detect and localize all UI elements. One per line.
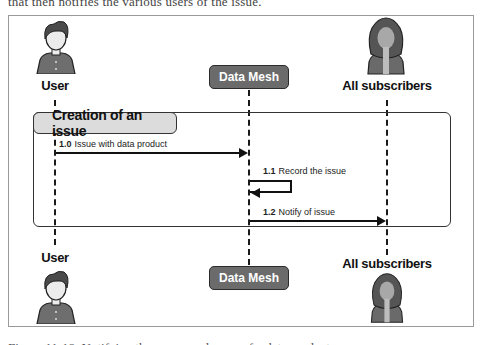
data-mesh-label-bottom: Data Mesh [219,271,279,285]
user-avatar-top [34,18,78,74]
actor-label-user-bottom: User [41,250,69,265]
woman-avatar-icon [364,16,408,76]
data-mesh-box-bottom: Data Mesh [209,266,289,290]
message-1-1-label: 1.1Record the issue [263,166,346,176]
message-1-1-number: 1.1 [263,166,276,176]
message-1-0-text: Issue with data product [75,139,168,149]
message-1-0-label: 1.0Issue with data product [59,139,167,149]
message-1-2-number: 1.2 [263,207,276,217]
actor-label-user-top: User [41,78,69,93]
caption-top-partial: that then notifies the various users of … [8,0,262,10]
subscribers-avatar-top [364,16,408,76]
man-avatar-icon [34,18,78,74]
actor-label-subscribers-top: All subscribers [342,78,431,93]
woman-avatar-icon [366,272,408,324]
message-1-0-number: 1.0 [59,139,72,149]
caption-bottom-partial: Figure 11-18. Notifying the owner and us… [8,337,330,345]
message-1-1-text: Record the issue [279,166,347,176]
message-1-2-text: Notify of issue [279,207,336,217]
data-mesh-box-top: Data Mesh [209,65,289,89]
subscribers-avatar-bottom [366,272,408,324]
actor-label-subscribers-bottom: All subscribers [342,256,431,271]
data-mesh-label-top: Data Mesh [219,70,279,84]
message-1-0-arrow [56,152,240,154]
arrow-head-icon [239,148,248,158]
message-1-2-label: 1.2Notify of issue [263,207,335,217]
fragment-label: Creation of an issue [33,112,177,134]
message-1-2-arrow [250,220,378,222]
user-avatar-bottom [34,268,78,324]
man-avatar-icon [34,268,78,324]
arrow-head-icon [251,188,260,198]
arrow-head-icon [377,216,386,226]
